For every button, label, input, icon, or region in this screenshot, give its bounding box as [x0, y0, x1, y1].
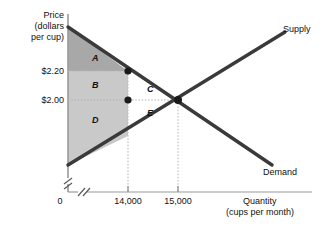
- region-label-d: D: [92, 115, 99, 126]
- x-axis-title-sub: (cups per month): [226, 207, 326, 218]
- supply-demand-chart: Price (dollars per cup) $2.20 $2.00 14,0…: [0, 0, 328, 232]
- marker-demand-at-14000: [124, 67, 131, 74]
- region-label-e: E: [147, 108, 153, 119]
- demand-curve-label: Demand: [263, 167, 297, 178]
- x-tick-label-15000: 15,000: [148, 196, 208, 207]
- y-axis-title: Price: [2, 10, 64, 21]
- marker-equilibrium: [174, 96, 182, 104]
- region-label-a: A: [92, 53, 99, 64]
- region-label-b: B: [92, 80, 99, 91]
- region-label-c: C: [147, 84, 154, 95]
- y-axis-title-sub2: per cup): [2, 32, 64, 43]
- y-axis-title-sub1: (dollars: [2, 21, 64, 32]
- origin-label: 0: [52, 196, 68, 207]
- supply-curve-label: Supply: [283, 24, 311, 35]
- x-axis-title: Quantity: [243, 196, 323, 207]
- y-axis-title-line1: Price: [43, 10, 64, 20]
- y-tick-label-200: $2.00: [16, 95, 64, 106]
- marker-price-200-at-14000: [124, 96, 131, 103]
- y-tick-label-220: $2.20: [16, 66, 64, 77]
